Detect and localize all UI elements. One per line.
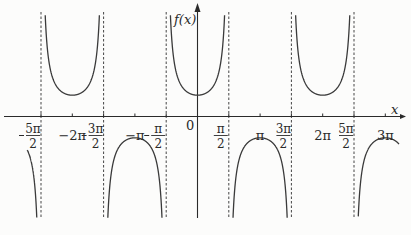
- secant-branch: [45, 15, 99, 95]
- secant-branch: [358, 138, 399, 217]
- tick-label-fraction: π2: [144, 122, 165, 151]
- tick-label-fraction: 5π2: [19, 122, 41, 151]
- svg-text:3π: 3π: [88, 122, 104, 136]
- tick-label: π: [256, 128, 265, 143]
- svg-text:2: 2: [342, 137, 350, 151]
- tick-label: −π: [125, 128, 145, 143]
- tick-label: 2π: [314, 128, 331, 143]
- svg-text:2: 2: [92, 137, 100, 151]
- tick-label-fraction: 3π2: [276, 122, 292, 151]
- secant-graph: 5π2−2π3π2−ππ2π2π3π22π5π23π f(x) x 0: [0, 0, 411, 235]
- x-axis-label: x: [391, 102, 399, 117]
- tick-label-fraction: 5π2: [338, 122, 354, 151]
- secant-branch: [296, 15, 350, 95]
- tick-label-fraction: 3π2: [82, 122, 104, 151]
- axes: [4, 3, 406, 218]
- origin-label: 0: [186, 118, 194, 133]
- svg-text:π: π: [154, 122, 162, 136]
- secant-branch: [27, 150, 37, 218]
- svg-text:2: 2: [29, 137, 37, 151]
- y-axis-label: f(x): [173, 12, 196, 27]
- svg-text:5π: 5π: [25, 122, 41, 136]
- tick-label-fraction: π2: [214, 122, 228, 151]
- x-axis-arrow-icon: [400, 114, 406, 119]
- svg-text:2: 2: [217, 137, 225, 151]
- x-tick-labels: 5π2−2π3π2−ππ2π2π3π22π5π23π: [19, 122, 394, 151]
- svg-text:3π: 3π: [276, 122, 292, 136]
- svg-text:2: 2: [280, 137, 288, 151]
- svg-text:π: π: [217, 122, 225, 136]
- tick-label: 3π: [377, 128, 394, 143]
- svg-text:5π: 5π: [338, 122, 354, 136]
- svg-text:2: 2: [154, 137, 162, 151]
- y-axis-arrow-icon: [195, 3, 201, 12]
